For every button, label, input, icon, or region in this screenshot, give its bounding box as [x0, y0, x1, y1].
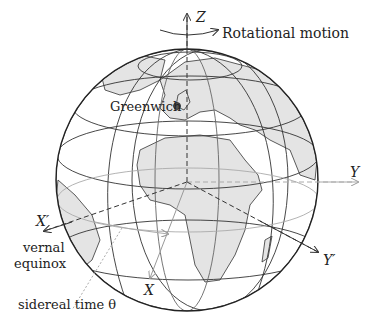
rotation-label: Rotational motion	[222, 25, 349, 41]
vernal-label: vernal	[22, 240, 65, 255]
equinox-label: equinox	[14, 256, 67, 271]
x-axis-label: X	[143, 282, 155, 298]
sidereal-time-label: sidereal time θ	[18, 297, 116, 312]
earth-diagram: Z Rotational motion Greenwich Y X′ verna…	[0, 0, 372, 325]
greenwich-label: Greenwich	[110, 99, 182, 114]
y-prime-label: Y′	[323, 252, 336, 268]
y-axis-label: Y	[350, 164, 361, 180]
z-axis-label: Z	[195, 9, 206, 25]
x-prime-label: X′	[35, 213, 50, 229]
